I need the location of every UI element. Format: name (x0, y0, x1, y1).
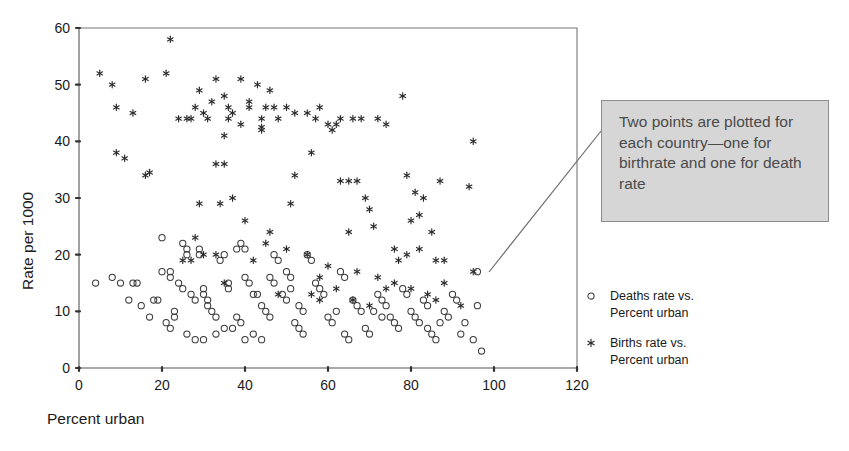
plot-canvas: 0102030405060020406080100120 Rate per 10… (0, 0, 849, 451)
svg-text:100: 100 (482, 377, 506, 393)
svg-text:80: 80 (403, 377, 419, 393)
legend-item-deaths: Deaths rate vs. Percent urban (584, 288, 784, 322)
legend-label-births: Births rate vs. Percent urban (610, 335, 784, 368)
svg-text:20: 20 (54, 247, 70, 263)
circle-marker-icon (584, 289, 598, 303)
callout-box: Two points are plotted for each country—… (601, 100, 829, 222)
series-births-points (97, 36, 476, 309)
callout-leader-line (489, 131, 601, 272)
svg-text:60: 60 (320, 377, 336, 393)
plot-frame (79, 28, 577, 368)
series-deaths-points (93, 235, 485, 355)
svg-text:60: 60 (54, 20, 70, 36)
legend-label-deaths: Deaths rate vs. Percent urban (610, 288, 784, 321)
x-axis-title: Percent urban (47, 410, 144, 427)
svg-text:20: 20 (154, 377, 170, 393)
svg-text:10: 10 (54, 303, 70, 319)
svg-text:40: 40 (237, 377, 253, 393)
scatter-plot-figure: 0102030405060020406080100120 Rate per 10… (0, 0, 849, 451)
svg-text:50: 50 (54, 77, 70, 93)
svg-text:30: 30 (54, 190, 70, 206)
svg-text:40: 40 (54, 133, 70, 149)
callout-text: Two points are plotted for each country—… (619, 112, 815, 194)
chart-legend: Deaths rate vs. Percent urban Births rat… (584, 288, 784, 382)
svg-text:0: 0 (62, 360, 70, 376)
asterisk-marker-icon (584, 336, 598, 350)
axis-tick-labels: 0102030405060020406080100120 (54, 20, 588, 393)
legend-item-births: Births rate vs. Percent urban (584, 335, 784, 369)
y-axis-title: Rate per 1000 (19, 191, 36, 290)
svg-text:0: 0 (75, 377, 83, 393)
